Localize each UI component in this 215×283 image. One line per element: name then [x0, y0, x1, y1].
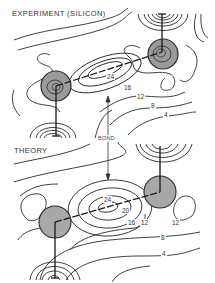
contour-label-24: 24 [106, 73, 115, 80]
experiment-contour-map [0, 0, 215, 140]
contour-label-12-center: 12 [140, 219, 149, 226]
contour-label-16: 16 [127, 219, 136, 226]
contour-label-20: 20 [121, 207, 130, 214]
contour-label-4: 4 [163, 111, 169, 118]
contour-label-4: 4 [161, 250, 167, 257]
contour-label-8: 8 [160, 234, 166, 241]
experiment-panel: EXPERIMENT (SILICON) 24 16 12 8 4 [0, 0, 215, 140]
right-atom [148, 39, 178, 69]
theory-panel: THEORY 24 20 16 12 12 8 4 [0, 140, 215, 283]
experiment-title: EXPERIMENT (SILICON) [12, 9, 106, 18]
contour-label-16: 16 [123, 84, 132, 91]
theory-title: THEORY [14, 146, 48, 155]
contour-label-12: 12 [136, 93, 145, 100]
theory-contour-map [0, 140, 215, 283]
contour-label-8: 8 [150, 102, 156, 109]
contour-label-12-right: 12 [171, 219, 180, 226]
bond-arrow [106, 96, 110, 136]
contour-label-24: 24 [103, 196, 112, 203]
